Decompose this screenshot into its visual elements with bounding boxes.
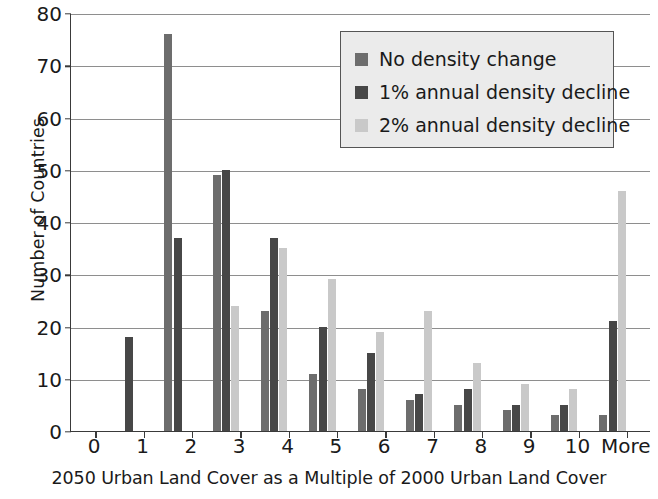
- y-tick-label: 0: [8, 422, 62, 442]
- bar: [222, 170, 230, 431]
- bar: [319, 327, 327, 432]
- x-tick-label: 5: [329, 436, 342, 456]
- bar: [551, 415, 559, 431]
- bar: [125, 337, 133, 431]
- y-tick-label: 40: [8, 213, 62, 233]
- bar: [279, 248, 287, 431]
- x-tick-label: More: [601, 436, 651, 456]
- x-tick-label: 2: [184, 436, 197, 456]
- x-tick-label: 4: [281, 436, 294, 456]
- bar: [521, 384, 529, 431]
- bar: [367, 353, 375, 431]
- x-tick-label: 8: [474, 436, 487, 456]
- bar: [569, 389, 577, 431]
- bar: [618, 191, 626, 431]
- bar: [231, 306, 239, 431]
- bar: [328, 279, 336, 431]
- bar: [358, 389, 366, 431]
- y-tick-label: 80: [8, 4, 62, 24]
- legend-swatch-icon: [355, 53, 368, 66]
- legend-swatch-icon: [355, 86, 368, 99]
- bar-group: [68, 14, 94, 431]
- bar-chart: Number of Countries 01020304050607080 01…: [0, 0, 658, 499]
- bar-group: [261, 14, 287, 431]
- x-axis-tick-labels: 012345678910More: [70, 436, 650, 464]
- bar: [599, 415, 607, 431]
- bar: [560, 405, 568, 431]
- bar: [376, 332, 384, 431]
- x-tick-label: 1: [136, 436, 149, 456]
- bar: [406, 400, 414, 431]
- bar: [464, 389, 472, 431]
- bar: [473, 363, 481, 431]
- bar: [454, 405, 462, 431]
- y-tick-label: 10: [8, 370, 62, 390]
- legend-swatch-icon: [355, 119, 368, 132]
- bar-group: [116, 14, 142, 431]
- x-tick-label: 9: [523, 436, 536, 456]
- bar-group: [309, 14, 335, 431]
- legend-item: 2% annual density decline: [355, 109, 613, 142]
- bar: [270, 238, 278, 431]
- bar: [261, 311, 269, 431]
- legend-label: 2% annual density decline: [379, 116, 630, 135]
- y-tick-mark: [65, 431, 71, 432]
- x-tick-label: 6: [378, 436, 391, 456]
- y-tick-label: 20: [8, 318, 62, 338]
- bar-group: [164, 14, 190, 431]
- bar: [424, 311, 432, 431]
- x-tick-label: 0: [88, 436, 101, 456]
- y-tick-label: 30: [8, 265, 62, 285]
- bar: [309, 374, 317, 431]
- bar: [164, 34, 172, 431]
- y-tick-label: 70: [8, 56, 62, 76]
- bar: [503, 410, 511, 431]
- legend-item: 1% annual density decline: [355, 76, 613, 109]
- x-tick-label: 7: [426, 436, 439, 456]
- bar: [609, 321, 617, 431]
- bar: [415, 394, 423, 431]
- bar-group: [213, 14, 239, 431]
- y-tick-label: 60: [8, 109, 62, 129]
- x-tick-label: 3: [233, 436, 246, 456]
- bar: [213, 175, 221, 431]
- bar: [512, 405, 520, 431]
- bar: [174, 238, 182, 431]
- x-axis-title: 2050 Urban Land Cover as a Multiple of 2…: [0, 468, 658, 488]
- legend-label: 1% annual density decline: [379, 83, 630, 102]
- y-axis-tick-labels: 01020304050607080: [8, 0, 62, 499]
- y-tick-label: 50: [8, 161, 62, 181]
- legend: No density change1% annual density decli…: [340, 31, 614, 148]
- legend-label: No density change: [379, 50, 557, 69]
- x-tick-label: 10: [565, 436, 590, 456]
- legend-item: No density change: [355, 43, 613, 76]
